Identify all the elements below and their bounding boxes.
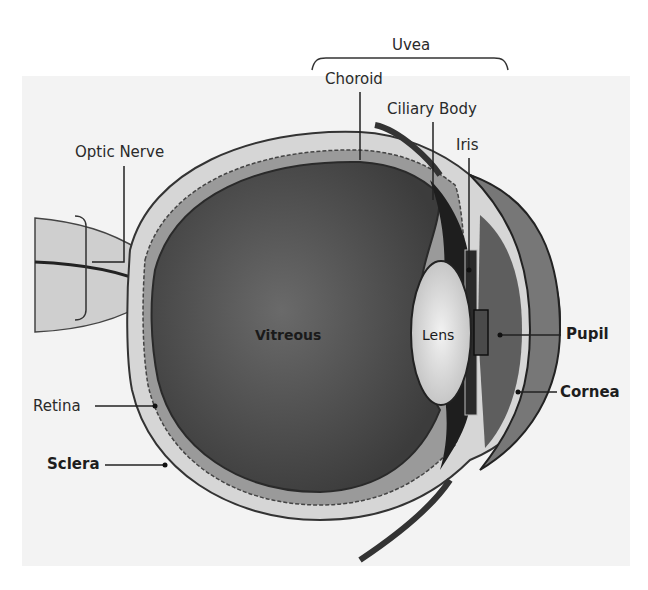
label-choroid: Choroid [325,72,383,87]
eye-cross-section-illustration [0,0,648,590]
label-sclera: Sclera [47,457,100,472]
label-uvea: Uvea [392,38,430,53]
label-ciliary-body: Ciliary Body [387,102,477,117]
pupil-shape [474,310,488,355]
label-pupil: Pupil [566,327,609,342]
label-lens: Lens [422,328,454,342]
label-retina: Retina [33,399,81,414]
label-optic-nerve: Optic Nerve [75,145,164,160]
label-cornea: Cornea [560,385,620,400]
label-iris: Iris [456,138,479,153]
label-vitreous: Vitreous [255,328,321,342]
uvea-bracket [312,58,508,70]
